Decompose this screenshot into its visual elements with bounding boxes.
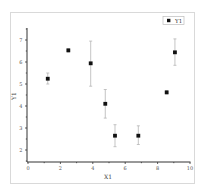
- data-point-square-icon: [46, 77, 50, 81]
- data-point-square-icon: [89, 61, 93, 65]
- x-tick-label: 2: [59, 165, 62, 171]
- data-point-square-icon: [136, 134, 140, 138]
- x-tick-label: 10: [187, 165, 193, 171]
- scatter-chart: 0246810 234567 X1 Y1 Y1: [0, 0, 205, 193]
- y-tick-label: 4: [19, 103, 22, 109]
- y-axis-title: Y1: [10, 92, 17, 101]
- x-tick-label: 6: [124, 165, 127, 171]
- y-tick-label: 2: [19, 147, 22, 153]
- x-axis-title: X1: [104, 173, 112, 180]
- data-point-square-icon: [113, 134, 117, 138]
- data-point-square-icon: [66, 48, 70, 52]
- legend: Y1: [163, 17, 184, 25]
- x-tick-label: 4: [91, 165, 94, 171]
- y-tick-label: 3: [19, 125, 22, 131]
- data-point-square-icon: [103, 102, 107, 106]
- y-tick-label: 5: [19, 81, 22, 87]
- data-point-square-icon: [173, 50, 177, 54]
- legend-marker-square-icon: [167, 19, 170, 22]
- y-tick-label: 6: [19, 59, 22, 65]
- legend-label: Y1: [174, 18, 182, 24]
- x-tick-label: 0: [26, 165, 29, 171]
- y-tick-label: 7: [19, 37, 22, 43]
- data-point-square-icon: [165, 90, 169, 94]
- x-tick-label: 8: [156, 165, 159, 171]
- chart-frame: [11, 13, 195, 184]
